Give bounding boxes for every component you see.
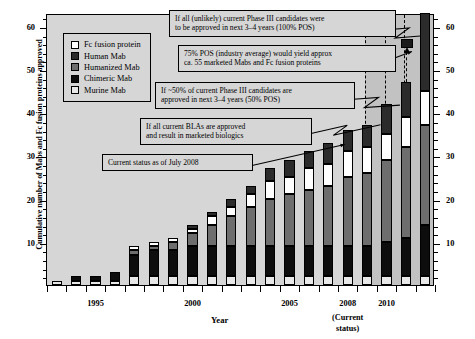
bar-segment-human	[323, 143, 333, 165]
bar-1994	[71, 276, 81, 285]
callout-line: ca. 55 marketed Mabs and Fc fusion prote…	[184, 58, 390, 68]
x-tick	[105, 285, 106, 292]
callout-line: approved in next 3–4 years (50% POS)	[161, 95, 349, 105]
y-tick-minor	[43, 235, 48, 236]
y-tick-minor-right	[433, 37, 438, 38]
bar-segment-fc	[420, 91, 430, 126]
callout-line: and result in marketed biologics	[146, 131, 306, 141]
y-tick-minor-right	[433, 106, 438, 107]
y-tick-minor	[43, 166, 48, 167]
bar-segment-chimeric	[381, 242, 391, 277]
y-tick-minor	[43, 97, 48, 98]
y-tick-minor	[43, 270, 48, 271]
y-tick-minor	[43, 175, 48, 176]
bar-segment-fc	[304, 168, 314, 190]
bar-2008	[343, 130, 353, 285]
x-tick	[357, 285, 358, 292]
y-tick-major-right	[433, 71, 440, 72]
bar-2000	[187, 225, 197, 285]
x-tick	[299, 285, 300, 292]
bar-segment-human	[362, 125, 372, 147]
y-tick-minor-right	[433, 88, 438, 89]
x-axis-label-2000: 2000	[173, 299, 213, 308]
y-axis-label: 60	[5, 23, 35, 32]
legend-item: Human Mab	[71, 50, 141, 61]
y-tick-major-right	[433, 201, 440, 202]
bar-segment-chimeric	[226, 246, 236, 276]
bar-segment-fc	[265, 181, 275, 198]
y-tick-minor-right	[433, 183, 438, 184]
bar-segment-fc	[401, 117, 411, 147]
x-axis-label-1995: 1995	[76, 299, 116, 308]
bar-segment-murine	[304, 276, 314, 285]
bar-segment-murine	[323, 276, 333, 285]
y-tick-minor	[43, 209, 48, 210]
bar-segment-fc	[149, 242, 159, 246]
x-tick	[241, 285, 242, 292]
bar-segment-humanized	[420, 125, 430, 224]
x-tick	[377, 285, 378, 292]
bar-segment-chimeric	[323, 246, 333, 276]
bar-segment-fc	[284, 177, 294, 194]
bar-segment-fc	[343, 151, 353, 177]
legend-item: Murine Mab	[71, 85, 141, 96]
bar-2009	[362, 125, 372, 285]
y-tick-minor	[43, 149, 48, 150]
y-axis-label: 50	[5, 66, 35, 75]
y-tick-minor-right	[433, 80, 438, 81]
y-tick-minor	[43, 88, 48, 89]
y-tick-minor	[43, 192, 48, 193]
y-tick-minor-right	[433, 45, 438, 46]
bar-segment-chimeric	[401, 238, 411, 277]
bar-segment-human	[265, 168, 275, 181]
y-tick-minor	[43, 19, 48, 20]
y-tick-major-right	[433, 244, 440, 245]
y-tick-minor-right	[433, 19, 438, 20]
y-tick-minor-right	[433, 235, 438, 236]
y-tick-minor	[43, 62, 48, 63]
legend-label: Humanized Mab	[84, 63, 140, 72]
bar-segment-fc	[187, 229, 197, 233]
y-tick-major	[40, 201, 47, 202]
y-tick-major-right	[433, 28, 440, 29]
bar-1999	[168, 238, 178, 285]
bar-segment-humanized	[246, 207, 256, 246]
bar-segment-chimeric	[149, 250, 159, 276]
x-tick	[47, 285, 48, 292]
callout-blas-approved: If all current BLAs are approved and res…	[140, 118, 312, 145]
y-tick-minor	[43, 218, 48, 219]
bar-segment-chimeric	[284, 246, 294, 276]
y-tick-minor-right	[433, 209, 438, 210]
y-tick-minor	[43, 140, 48, 141]
callout-50-pos: If ~50% of current Phase III candidates …	[155, 82, 355, 109]
bar-segment-human	[226, 199, 236, 208]
y-tick-major	[40, 71, 47, 72]
bar-segment-humanized	[323, 186, 333, 246]
y-axis-label-right: 20	[446, 196, 475, 205]
bar-1998	[149, 242, 159, 285]
bar-segment-humanized	[362, 173, 372, 246]
x-tick	[260, 285, 261, 292]
y-tick-minor	[43, 45, 48, 46]
bar-segment-humanized	[284, 194, 294, 246]
y-tick-minor-right	[433, 270, 438, 271]
bar-segment-human	[420, 13, 430, 91]
x-tick	[396, 285, 397, 292]
legend-item: Fc fusion protein	[71, 39, 141, 50]
bar-segment-human	[207, 212, 217, 216]
bar-2005	[284, 160, 294, 285]
current-status-note: (Currentstatus)	[318, 312, 378, 334]
legend-label: Chimeric Mab	[84, 74, 132, 83]
y-tick-minor-right	[433, 166, 438, 167]
callout-line: If all current BLAs are approved	[146, 122, 306, 132]
legend-swatch-fc-fusion-protein	[71, 41, 79, 49]
x-tick	[125, 285, 126, 292]
bar-segment-chimeric	[362, 246, 372, 276]
y-axis-label: 40	[5, 109, 35, 118]
bar-2002	[226, 199, 236, 285]
bar-segment-chimeric	[90, 276, 100, 280]
y-tick-minor-right	[433, 97, 438, 98]
y-tick-minor	[43, 261, 48, 262]
bar-segment-fc	[246, 194, 256, 207]
bar-segment-humanized	[149, 246, 159, 250]
